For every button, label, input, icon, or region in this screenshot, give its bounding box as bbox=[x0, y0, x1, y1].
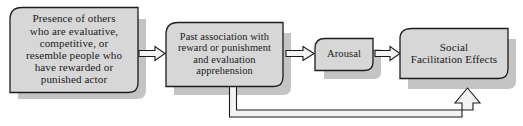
box-node-1 bbox=[10, 8, 138, 93]
box-node-3 bbox=[315, 39, 373, 71]
flow-diagram: Presence of others who are evaluative, c… bbox=[0, 0, 523, 126]
box-node-4 bbox=[400, 29, 508, 79]
diagram-canvas bbox=[0, 0, 523, 126]
box-node-2 bbox=[166, 23, 283, 87]
